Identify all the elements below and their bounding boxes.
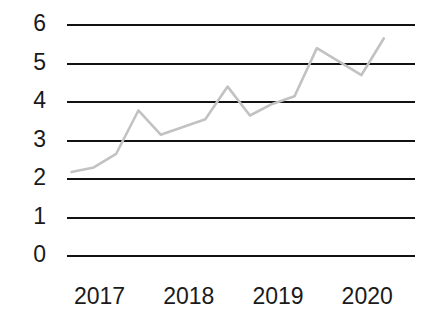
y-tick-label: 5 [2,51,46,74]
series-layer [67,0,415,280]
y-tick-label: 6 [2,12,46,35]
y-tick-label: 3 [2,128,46,151]
x-tick-label: 2019 [252,283,303,309]
series-line-1 [71,38,383,172]
y-tick-label: 2 [2,166,46,189]
x-tick-label: 2018 [163,283,214,309]
x-tick-label: 2017 [74,283,125,309]
plot-area [67,0,415,280]
y-tick-label: 0 [2,243,46,266]
y-axis-tick-labels: 0123456 [0,0,46,327]
line-chart: 0123456 2017201820192020 [0,0,438,327]
x-tick-label: 2020 [342,283,393,309]
y-tick-label: 4 [2,89,46,112]
y-tick-label: 1 [2,205,46,228]
x-axis-tick-labels: 2017201820192020 [0,283,438,317]
